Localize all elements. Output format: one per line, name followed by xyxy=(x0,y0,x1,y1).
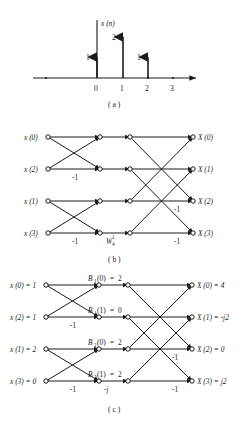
panel-c-coef-s1-0: -1 xyxy=(70,322,76,330)
b-label-arg-3: (1) xyxy=(97,370,106,379)
b-label-arg-1: (1) xyxy=(97,306,106,315)
b-label-base-0: B xyxy=(88,274,93,283)
node-b-m1-0 xyxy=(98,135,102,139)
node-c-m2-0 xyxy=(126,283,130,287)
node-b-out-1 xyxy=(191,167,195,171)
node-c-out-1 xyxy=(190,315,194,319)
stem-label-n0: 1 xyxy=(86,53,90,62)
panel-b-output-1: X (1) xyxy=(197,165,214,174)
figure-fft-butterfly: x (n) 1 2 1 0 1 2 3 ( a ) x (0) x (2) x … xyxy=(0,0,251,427)
node-c-in-1 xyxy=(44,315,48,319)
panel-c: x (0) = 1 x (2) = 1 x (1) = 2 x (3) = 0 xyxy=(9,274,229,414)
panel-b-caption: ( b ) xyxy=(108,255,121,264)
b-label-base-3: B xyxy=(88,370,93,379)
node-c-out-0 xyxy=(190,283,194,287)
panel-c-caption: ( c ) xyxy=(108,405,121,414)
panel-a-tick-0: 0 xyxy=(94,84,98,93)
node-b-m1-1 xyxy=(98,167,102,171)
node-b-in-1 xyxy=(46,167,50,171)
node-b-m2-0 xyxy=(128,135,132,139)
panel-b-coef-s2-0: -1 xyxy=(174,206,180,214)
panel-b: x (0) x (2) x (1) x (3) xyxy=(23,133,214,264)
panel-a-tick-2: 2 xyxy=(145,84,149,93)
stem-label-n1: 2 xyxy=(112,33,116,42)
panel-c-output-2: X (2) = 0 xyxy=(196,345,225,354)
node-c-m1-1 xyxy=(97,315,101,319)
panel-c-intermediate-0: B 1 (0) = 2 xyxy=(88,274,122,284)
panel-c-coef-s1-1: -1 xyxy=(70,386,76,394)
b-label-eq-1: = xyxy=(110,306,114,315)
panel-c-output-3: X (3) = j2 xyxy=(196,377,227,386)
node-c-out-2 xyxy=(190,347,194,351)
node-c-in-3 xyxy=(44,379,48,383)
node-b-out-2 xyxy=(191,199,195,203)
node-b-m2-1 xyxy=(128,167,132,171)
panel-c-intermediate-2: B 2 (0) = 2 xyxy=(88,338,122,348)
b-label-eq-0: = xyxy=(110,274,114,283)
panel-c-twiddle-coef: -j xyxy=(104,386,108,394)
b-label-eq-3: = xyxy=(110,370,114,379)
twiddle-subscript: 4 xyxy=(112,241,115,247)
panel-b-output-3: X (3) xyxy=(197,229,214,238)
b-label-base-2: B xyxy=(88,338,93,347)
b-label-arg-0: (0) xyxy=(97,274,106,283)
b-label-arg-2: (0) xyxy=(97,338,106,347)
node-c-m2-3 xyxy=(126,379,130,383)
node-c-m1-0 xyxy=(97,283,101,287)
panel-b-coef-s1-0: -1 xyxy=(72,174,78,182)
axis-dot xyxy=(45,77,47,79)
panel-c-input-2: x (1) = 2 xyxy=(9,345,36,354)
node-c-m1-2 xyxy=(97,347,101,351)
node-c-m2-2 xyxy=(126,347,130,351)
node-c-in-2 xyxy=(44,347,48,351)
b-label-eq-2: = xyxy=(110,338,114,347)
axis-dot xyxy=(172,77,174,79)
panel-c-output-1: X (1) = -j2 xyxy=(196,313,229,322)
panel-b-output-2: X (2) xyxy=(197,197,214,206)
panel-c-coef-s2-1: -1 xyxy=(172,386,178,394)
panel-c-input-1: x (2) = 1 xyxy=(9,313,36,322)
node-b-m2-3 xyxy=(128,231,132,235)
panel-a-signal-label: x (n) xyxy=(100,19,115,28)
panel-c-intermediate-1: B 1 (1) = 0 xyxy=(88,306,122,316)
panel-b-twiddle-label: W 4 1 xyxy=(106,234,115,247)
panel-a: x (n) 1 2 1 0 1 2 3 ( a ) xyxy=(33,19,196,109)
panel-b-coef-s1-1: -1 xyxy=(72,238,78,246)
b-label-base-1: B xyxy=(88,306,93,315)
panel-a-caption: ( a ) xyxy=(108,100,121,109)
panel-c-input-0: x (0) = 1 xyxy=(9,281,36,290)
panel-b-input-2: x (1) xyxy=(23,197,38,206)
node-b-out-3 xyxy=(191,231,195,235)
node-b-in-0 xyxy=(46,135,50,139)
b-label-value-2: 2 xyxy=(118,338,122,347)
panel-c-coef-s2-0: -1 xyxy=(172,354,178,362)
panel-a-tick-3: 3 xyxy=(170,84,174,93)
panel-b-input-3: x (3) xyxy=(23,229,38,238)
node-c-m1-3 xyxy=(97,379,101,383)
b-label-value-3: 2 xyxy=(118,370,122,379)
node-b-out-0 xyxy=(191,135,195,139)
b-label-value-0: 2 xyxy=(118,274,122,283)
node-b-in-2 xyxy=(46,199,50,203)
node-c-in-0 xyxy=(44,283,48,287)
node-b-m1-2 xyxy=(98,199,102,203)
b-label-value-1: 0 xyxy=(118,306,122,315)
panel-c-input-3: x (3) = 0 xyxy=(9,377,36,386)
node-c-out-3 xyxy=(190,379,194,383)
panel-a-tick-1: 1 xyxy=(120,84,124,93)
panel-b-input-1: x (2) xyxy=(23,165,38,174)
node-c-m2-1 xyxy=(126,315,130,319)
panel-b-input-0: x (0) xyxy=(23,133,38,142)
panel-b-coef-s2-1: -1 xyxy=(174,238,180,246)
twiddle-superscript: 1 xyxy=(112,234,115,240)
stem-label-n2: 1 xyxy=(137,53,141,62)
node-b-m2-2 xyxy=(128,199,132,203)
panel-c-intermediate-3: B 2 (1) = 2 xyxy=(88,370,122,380)
panel-c-output-0: X (0) = 4 xyxy=(196,281,225,290)
node-b-m1-3 xyxy=(98,231,102,235)
node-b-in-3 xyxy=(46,231,50,235)
panel-b-output-0: X (0) xyxy=(197,133,214,142)
